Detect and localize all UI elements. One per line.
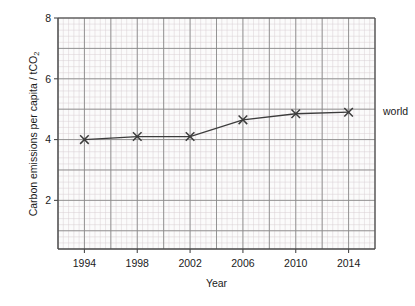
y-axis-label: Carbon emissions per capita / tCO2	[27, 19, 39, 249]
y-tick-label: 4	[45, 133, 51, 145]
y-tick-label: 2	[45, 194, 51, 206]
x-tick-label: 2002	[178, 257, 202, 269]
x-tick-label: 1998	[126, 257, 150, 269]
y-axis-label-subscript: 2	[32, 52, 41, 56]
y-axis-ticks: 2468	[45, 12, 58, 206]
x-tick-label: 2010	[284, 257, 308, 269]
chart-plot: 2468 199419982002200620102014	[0, 0, 415, 306]
chart-figure: Carbon emissions per capita / tCO2 Year …	[0, 0, 415, 306]
x-tick-label: 2014	[337, 257, 361, 269]
y-tick-label: 6	[45, 73, 51, 85]
x-tick-label: 1994	[73, 257, 97, 269]
y-tick-label: 8	[45, 12, 51, 24]
x-axis-ticks: 199419982002200620102014	[73, 249, 361, 269]
series-label-world: world	[383, 105, 408, 117]
y-axis-label-text: Carbon emissions per capita / tCO	[27, 56, 39, 216]
x-axis-label: Year	[58, 277, 375, 289]
x-tick-label: 2006	[231, 257, 255, 269]
